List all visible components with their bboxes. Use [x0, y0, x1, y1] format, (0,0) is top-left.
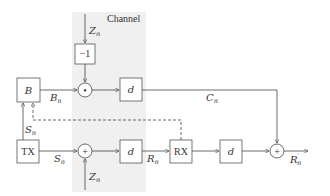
r-n-label: Rn	[146, 153, 159, 166]
b-block-label: B	[24, 85, 32, 96]
c-n-label: Cn	[206, 92, 218, 105]
rx-label: RX	[174, 146, 189, 157]
tx-label: TX	[21, 146, 35, 157]
s-n-label: Sn	[54, 153, 65, 166]
s-n-feedback-label: Sn	[25, 124, 36, 137]
channel-label: Channel	[107, 13, 141, 24]
channel-block-diagram: Channel Zn −1 B Bn • d Cn TX Sn Sn + Zn …	[0, 0, 330, 196]
delay-top-label: d	[128, 84, 134, 95]
delay-right-label: d	[228, 146, 234, 157]
channel-adder-symbol: +	[82, 146, 88, 157]
b-n-label: Bn	[49, 92, 62, 105]
output-adder-symbol: +	[274, 146, 280, 157]
delay-mid-label: d	[128, 146, 134, 157]
negate-label: −1	[80, 48, 91, 59]
multiply-symbol: •	[83, 85, 87, 96]
r-prime-n-label: R′n	[289, 152, 301, 167]
channel-region	[72, 12, 146, 192]
